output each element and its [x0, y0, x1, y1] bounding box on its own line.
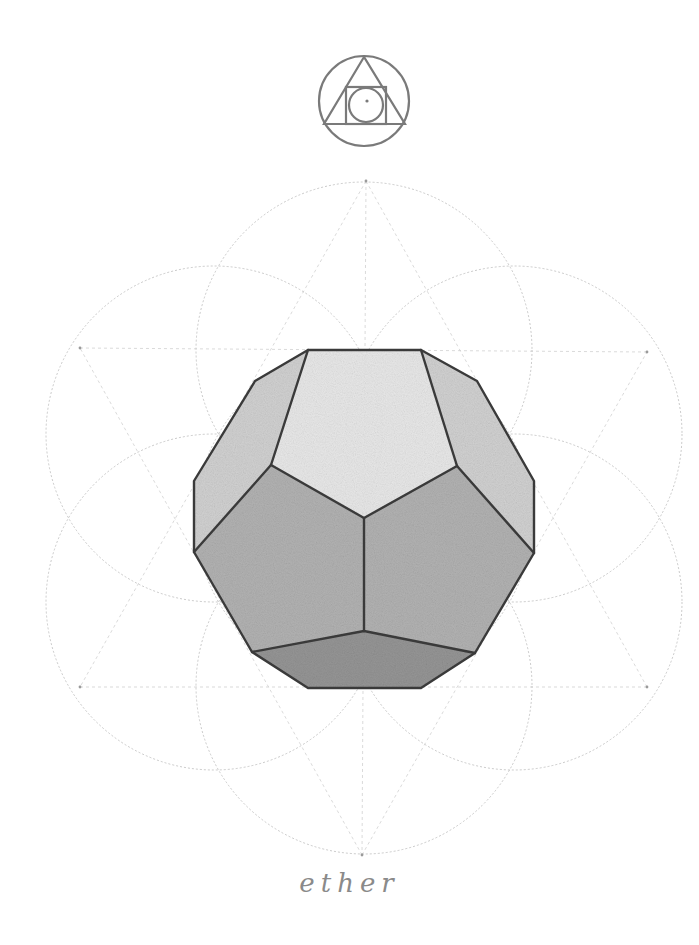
- artwork-canvas: [0, 0, 699, 945]
- construction-point: [646, 351, 649, 354]
- construction-point: [79, 347, 82, 350]
- construction-point: [79, 686, 82, 689]
- construction-point: [365, 180, 368, 183]
- caption-text: ether: [0, 868, 699, 898]
- construction-point: [646, 686, 649, 689]
- symbol-center-dot: [365, 99, 368, 102]
- symbol-inner-circle: [349, 88, 383, 122]
- construction-point: [361, 854, 364, 857]
- philosophers-stone-icon: [319, 56, 409, 146]
- symbol-outer-circle: [319, 56, 409, 146]
- symbol-square: [346, 87, 386, 124]
